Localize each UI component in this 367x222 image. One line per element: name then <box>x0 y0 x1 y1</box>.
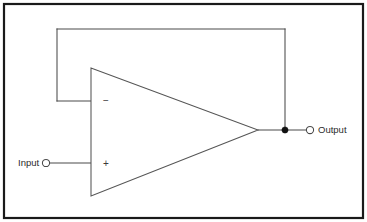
non-inverting-input-label: + <box>103 158 109 169</box>
input-terminal-icon[interactable] <box>42 159 49 166</box>
op-amp-triangle <box>91 68 258 196</box>
input-port-label: Input <box>18 157 39 168</box>
schematic-diagram: − + Input Output <box>0 0 367 222</box>
inverting-input-label: − <box>103 95 109 106</box>
feedback-junction-dot <box>282 127 288 133</box>
circuit-schematic-canvas: − + Input Output <box>0 0 367 222</box>
output-port-label: Output <box>318 124 347 135</box>
output-terminal-icon[interactable] <box>306 126 313 133</box>
